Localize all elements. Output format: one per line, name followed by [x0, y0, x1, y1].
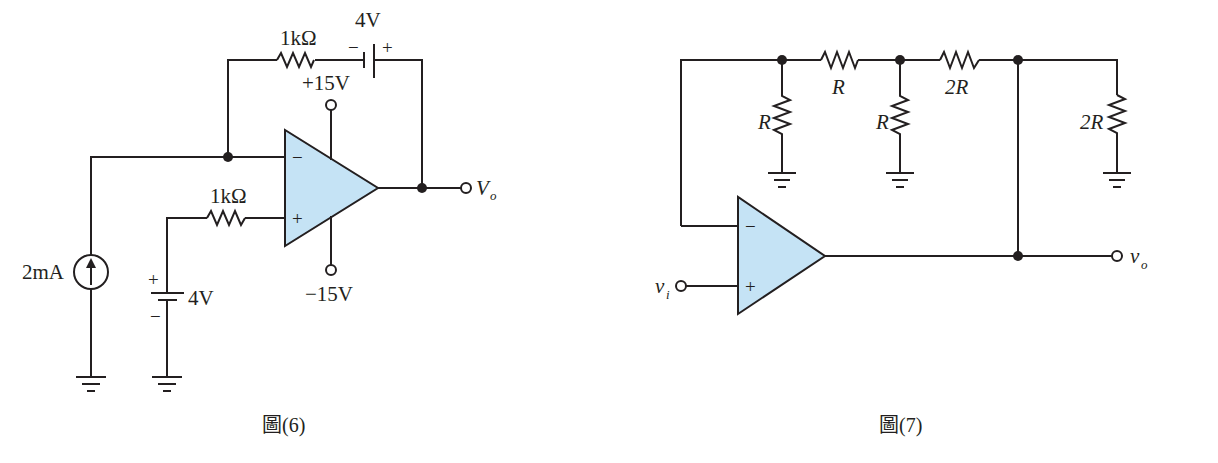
ground-icon [76, 377, 106, 391]
output-junction-dot [1013, 251, 1023, 261]
opamp-noninverting-sign: + [745, 276, 756, 297]
ladder-wire-left [681, 60, 821, 226]
input-battery-minus: − [150, 306, 161, 327]
input-battery-label: 4V [188, 286, 214, 310]
figure-7: R 2R R R 2R [655, 52, 1148, 437]
resistor-icon [774, 60, 790, 173]
feedback-wire-left [228, 60, 277, 157]
feedback-battery-plus: + [382, 37, 393, 58]
current-source-icon [74, 255, 108, 289]
inverting-input-wire [91, 157, 285, 255]
current-source-label: 2mA [22, 260, 65, 284]
supply-positive-label: +15V [302, 71, 350, 95]
figure-6-caption: 圖(6) [262, 414, 305, 437]
opamp-noninverting-sign: + [292, 208, 303, 229]
series-resistor-label-2: 2R [945, 75, 969, 99]
feedback-battery-minus: − [348, 37, 359, 58]
resistor-icon [1109, 95, 1125, 173]
output-terminal[interactable] [1112, 251, 1122, 261]
supply-positive-terminal [326, 100, 336, 110]
series-resistor-label-1: R [831, 75, 845, 99]
ground-icon [886, 173, 914, 187]
output-label: v [1130, 244, 1140, 268]
ground-icon [1103, 173, 1131, 187]
feedback-resistor-label: 1kΩ [280, 26, 317, 50]
ground-icon [768, 173, 796, 187]
battery-icon [151, 293, 184, 300]
feedback-wire-right [374, 60, 422, 188]
ground-icon [152, 377, 182, 391]
opamp-inverting-sign: − [745, 216, 756, 237]
shunt-resistor-label-3: 2R [1080, 110, 1104, 134]
shunt-resistor-label-2: R [875, 110, 889, 134]
noninverting-wire-left [167, 218, 207, 293]
resistor-icon [207, 211, 245, 225]
resistor-icon [277, 53, 314, 67]
input-resistor-label: 1kΩ [210, 184, 247, 208]
resistor-icon [940, 52, 979, 68]
output-label-subscript: o [490, 188, 497, 203]
output-junction-dot [417, 183, 427, 193]
input-terminal[interactable] [676, 281, 686, 291]
shunt-resistor-label-1: R [757, 110, 771, 134]
input-battery-plus: + [148, 269, 159, 290]
output-terminal[interactable] [461, 183, 471, 193]
ladder-wire-right [979, 60, 1117, 95]
feedback-battery-label: 4V [355, 8, 381, 32]
junction-dot [223, 152, 233, 162]
figure-7-caption: 圖(7) [879, 414, 922, 437]
input-label: v [655, 274, 665, 298]
circuit-diagrams: 1kΩ 4V − + +15V −15V − + V o [0, 0, 1218, 463]
output-label-subscript: o [1141, 257, 1148, 272]
supply-negative-label: −15V [305, 282, 353, 306]
opamp-inverting-sign: − [292, 147, 303, 168]
battery-icon [364, 44, 374, 78]
output-label: V [476, 176, 491, 200]
supply-negative-terminal [326, 265, 336, 275]
opamp-icon: − + [738, 197, 825, 314]
figure-6: 1kΩ 4V − + +15V −15V − + V o [22, 8, 497, 437]
input-label-subscript: i [666, 287, 670, 302]
resistor-icon [892, 60, 908, 173]
resistor-icon [821, 52, 858, 68]
